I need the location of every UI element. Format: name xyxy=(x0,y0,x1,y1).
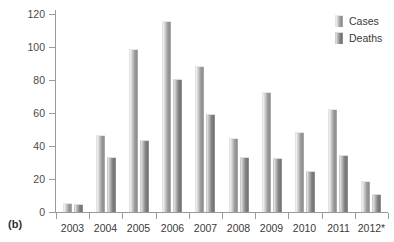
legend-item-cases: Cases xyxy=(335,12,382,29)
bar-cases-2008 xyxy=(229,138,238,212)
bar-cases-2006 xyxy=(162,21,171,212)
x-axis-tick xyxy=(189,213,190,219)
panel-label: (b) xyxy=(8,218,22,230)
bar-deaths-2004 xyxy=(107,157,116,212)
bar-cases-2009 xyxy=(262,92,271,212)
bar-deaths-2008 xyxy=(240,157,249,212)
legend-swatch-icon xyxy=(335,32,343,44)
bar-deaths-2007 xyxy=(206,114,215,212)
bar-deaths-2005 xyxy=(140,140,149,212)
legend-item-label: Deaths xyxy=(349,32,382,44)
bar-deaths-2003 xyxy=(74,204,83,212)
bar-deaths-2009 xyxy=(273,158,282,212)
x-axis-tick-label: 2007 xyxy=(189,222,222,234)
x-axis-tick xyxy=(89,213,90,219)
x-axis-tick-label: 2009 xyxy=(255,222,288,234)
bar-deaths-2011 xyxy=(339,155,348,212)
bar-chart-figure: (b) 020406080100120 20032004200520062007… xyxy=(0,0,394,242)
x-axis-tick xyxy=(288,213,289,219)
x-axis-tick-label: 2008 xyxy=(222,222,255,234)
x-axis-tick xyxy=(122,213,123,219)
x-axis-tick xyxy=(255,213,256,219)
chart-legend: CasesDeaths xyxy=(335,12,382,46)
x-axis-tick xyxy=(56,213,57,219)
bar-cases-2004 xyxy=(96,135,105,212)
x-axis-tick-label: 2004 xyxy=(89,222,122,234)
bar-cases-2011 xyxy=(328,109,337,212)
x-axis-tick-label: 2012* xyxy=(355,222,388,234)
bar-deaths-2006 xyxy=(173,79,182,212)
bar-cases-2010 xyxy=(295,132,304,212)
bar-deaths-2012 xyxy=(372,194,381,212)
x-axis-tick-label: 2011 xyxy=(322,222,355,234)
x-axis-tick xyxy=(388,213,389,219)
bar-cases-2007 xyxy=(195,66,204,212)
legend-item-deaths: Deaths xyxy=(335,29,382,46)
bar-deaths-2010 xyxy=(306,171,315,212)
x-axis-tick xyxy=(322,213,323,219)
legend-item-label: Cases xyxy=(349,15,379,27)
x-axis-tick-label: 2003 xyxy=(56,222,89,234)
bar-cases-2003 xyxy=(63,203,72,212)
x-axis-tick-label: 2010 xyxy=(288,222,321,234)
x-axis-tick-label: 2005 xyxy=(122,222,155,234)
legend-swatch-icon xyxy=(335,15,343,27)
x-axis-tick xyxy=(156,213,157,219)
y-axis-tick xyxy=(49,212,56,213)
x-axis-tick-label: 2006 xyxy=(156,222,189,234)
bar-cases-2012 xyxy=(361,181,370,212)
x-axis-tick xyxy=(222,213,223,219)
bar-cases-2005 xyxy=(129,49,138,212)
x-axis-tick xyxy=(355,213,356,219)
